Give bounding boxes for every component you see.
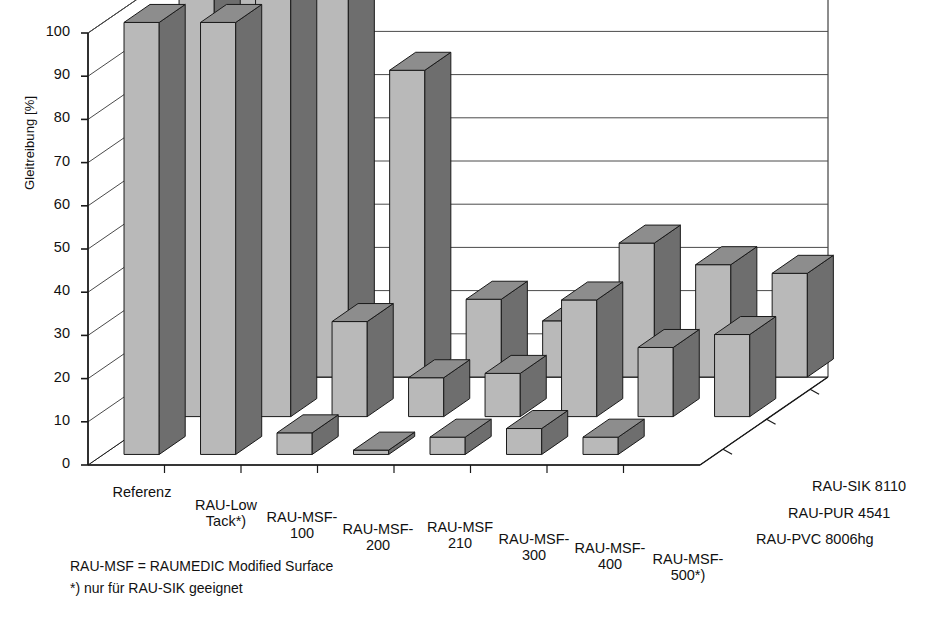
chart-figure: Gleitreibung [%] 0102030405060708090100 … (0, 0, 943, 621)
y-tick-60: 60 (36, 196, 70, 212)
y-tick-70: 70 (36, 153, 70, 169)
depth-axis-label-2: RAU-PVC 8006hg (756, 531, 874, 547)
y-tick-80: 80 (36, 109, 70, 125)
y-tick-10: 10 (36, 412, 70, 428)
footnote-line-1: RAU-MSF = RAUMEDIC Modified Surface (70, 556, 333, 576)
y-tick-20: 20 (36, 369, 70, 385)
footnote-line-2: *) nur für RAU-SIK geeignet (70, 578, 243, 598)
y-tick-50: 50 (36, 239, 70, 255)
y-tick-90: 90 (36, 66, 70, 82)
depth-axis-label-0: RAU-SIK 8110 (812, 478, 906, 494)
x-axis-label-7: RAU-MSF- 500*) (638, 551, 738, 583)
y-tick-30: 30 (36, 325, 70, 341)
depth-axis-label-1: RAU-PUR 4541 (788, 505, 890, 521)
y-tick-40: 40 (36, 282, 70, 298)
y-tick-0: 0 (36, 455, 70, 471)
y-tick-100: 100 (36, 23, 70, 39)
